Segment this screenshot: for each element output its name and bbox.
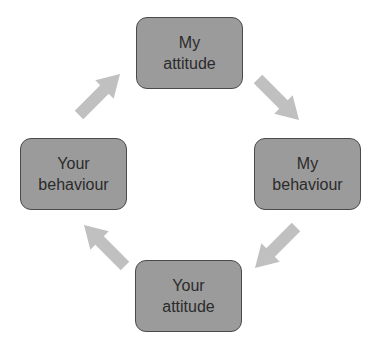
node-label-line2: attitude bbox=[162, 296, 214, 317]
arrow-icon-your-attitude-to-your-behaviour bbox=[75, 216, 134, 275]
node-label-line1: My bbox=[163, 32, 215, 53]
node-my-attitude: Myattitude bbox=[136, 17, 243, 89]
node-your-attitude: Yourattitude bbox=[135, 260, 242, 332]
node-label-line1: Your bbox=[162, 275, 214, 296]
node-label-line1: Your bbox=[38, 153, 108, 174]
node-label-line2: behaviour bbox=[272, 174, 342, 195]
node-my-behaviour: Mybehaviour bbox=[254, 138, 361, 210]
node-your-behaviour: Yourbehaviour bbox=[20, 138, 127, 210]
arrow-icon-my-attitude-to-my-behaviour bbox=[249, 70, 308, 129]
node-label-line1: My bbox=[272, 153, 342, 174]
arrow-icon-my-behaviour-to-your-attitude bbox=[246, 218, 305, 277]
node-label-line2: attitude bbox=[163, 53, 215, 74]
arrow-icon-your-behaviour-to-my-attitude bbox=[70, 65, 129, 124]
node-label-line2: behaviour bbox=[38, 174, 108, 195]
